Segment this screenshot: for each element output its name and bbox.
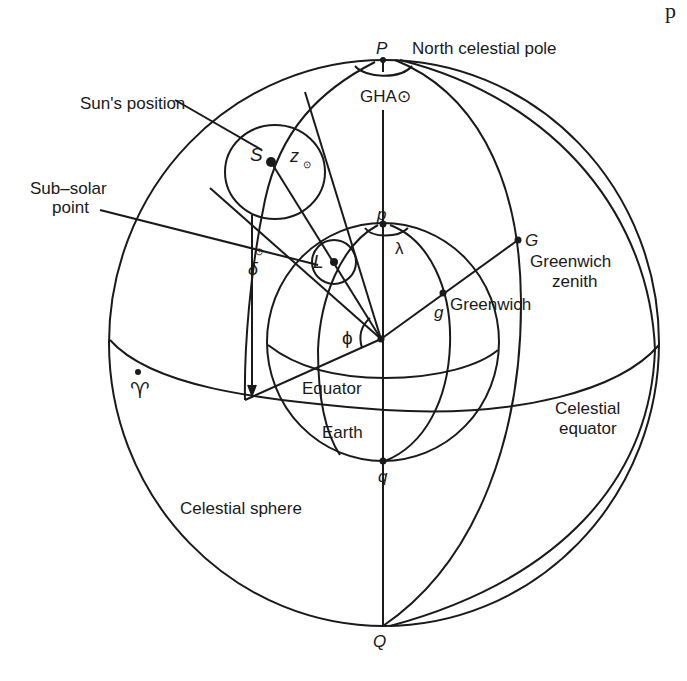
points — [135, 57, 522, 465]
sun-meridian — [245, 62, 375, 400]
label-phi: ϕ — [342, 328, 353, 347]
label-q: q — [378, 468, 387, 485]
point-L-dot — [330, 258, 338, 266]
label-L: L — [313, 252, 324, 271]
label-sub-solar-line1: Sub–solar — [30, 180, 107, 197]
label-greenwich-zenith-line2: zenith — [552, 273, 597, 290]
point-g-dot — [440, 290, 447, 297]
earth-greenwich-meridian — [385, 225, 450, 461]
label-celestial-sphere: Celestial sphere — [180, 500, 302, 517]
celestial-sphere-diagram: p P North celestial pole GHA⊙ Sun's posi… — [0, 0, 687, 681]
label-delta: δ — [248, 260, 258, 278]
label-z: z — [290, 147, 299, 165]
center-to-sun-line — [271, 162, 381, 339]
label-delta-sup: ⊙ — [255, 247, 263, 257]
label-celestial-equator-line2: equator — [559, 420, 617, 437]
point-q-dot — [380, 458, 387, 465]
label-gha: GHA⊙ — [360, 88, 411, 105]
label-greenwich: Greenwich — [450, 296, 531, 313]
label-g: g — [434, 304, 443, 321]
label-earth: Earth — [322, 424, 363, 441]
declination-arrow-head — [248, 385, 256, 395]
label-greenwich-zenith-line1: Greenwich — [530, 253, 611, 270]
point-center-dot — [378, 336, 385, 343]
label-p: p — [377, 206, 386, 223]
label-G: G — [525, 232, 538, 249]
label-P: P — [376, 40, 387, 57]
label-lambda: λ — [395, 240, 404, 257]
label-z-sub: ⊙ — [303, 160, 311, 170]
label-equator: Equator — [302, 380, 362, 397]
point-G-dot — [515, 237, 522, 244]
label-celestial-equator-line1: Celestial — [555, 400, 620, 417]
point-S-dot — [266, 157, 276, 167]
header-fragment: p — [665, 0, 676, 22]
label-sub-solar-line2: point — [52, 199, 89, 216]
sun-leader-line — [175, 100, 262, 150]
label-S: S — [250, 145, 263, 164]
observer-tangent-right — [305, 92, 381, 339]
label-north-celestial-pole: North celestial pole — [412, 40, 557, 57]
label-suns-position: Sun's position — [80, 95, 185, 112]
outer-meridian-right — [390, 60, 655, 626]
label-Q: Q — [373, 633, 386, 650]
greenwich-celestial-meridian — [383, 60, 521, 626]
point-aries-dot — [135, 369, 141, 375]
label-aries: ♈ — [130, 380, 150, 402]
sun-circle — [225, 125, 325, 219]
